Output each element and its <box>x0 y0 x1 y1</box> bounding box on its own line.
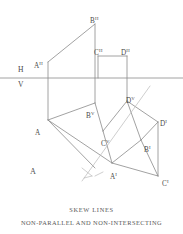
segment-cv-dv <box>103 101 127 131</box>
point-label-bv: BV <box>86 113 94 120</box>
caption-subtitle: NON-PARALLEL AND NON-INTERSECTING <box>0 220 183 226</box>
point-plane-superscript: H <box>39 61 43 66</box>
point-label-dh: DH <box>121 50 130 57</box>
segment-bv-cv <box>95 103 103 131</box>
point-label-a: A <box>35 130 40 137</box>
segment-bi-di <box>141 122 158 140</box>
point-base-letter: A <box>35 129 40 137</box>
point-plane-superscript: I <box>149 145 151 150</box>
h-plane-label: H <box>18 66 23 74</box>
segment-skew-tail <box>95 172 103 176</box>
point-plane-superscript: V <box>131 96 135 101</box>
point-plane-superscript: I <box>167 179 169 184</box>
point-label-ah: AH <box>34 63 43 70</box>
point-plane-superscript: H <box>126 48 130 53</box>
skew-lines-figure: AHBHCHDHBVCVDVAIBICIDIA H V A SKEW LINES… <box>0 0 183 234</box>
point-label-bi: BI <box>144 147 151 154</box>
segment-ai-bi <box>112 140 141 163</box>
segment-lower-left-edge <box>48 120 95 168</box>
segment-ai-ci <box>112 163 158 176</box>
point-plane-superscript: V <box>106 139 110 144</box>
point-label-ai: AI <box>110 174 117 181</box>
point-label-cv: CV <box>101 141 109 148</box>
segment-ah-bh <box>48 24 95 62</box>
point-label-ch: CH <box>94 50 102 57</box>
panel-identifier-label: A <box>30 168 36 176</box>
point-label-di: DI <box>160 121 167 128</box>
v-plane-label: V <box>18 81 23 89</box>
point-plane-superscript: I <box>165 119 167 124</box>
point-plane-superscript: H <box>99 48 103 53</box>
point-label-ci: CI <box>162 181 169 188</box>
point-label-dv: DV <box>126 98 135 105</box>
point-plane-superscript: H <box>95 16 99 21</box>
segment-bi-dv <box>127 101 141 140</box>
point-label-bh: BH <box>90 18 98 25</box>
point-plane-superscript: V <box>91 111 95 116</box>
caption-title: SKEW LINES <box>0 207 183 213</box>
point-plane-superscript: I <box>115 172 117 177</box>
segment-skew-line <box>82 86 150 181</box>
segments-layer <box>0 24 183 181</box>
